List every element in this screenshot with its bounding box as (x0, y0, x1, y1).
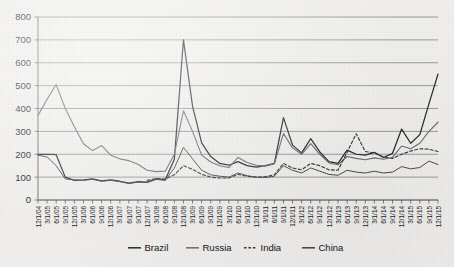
line-chart: 0100200300400500600700800 12/1/043/1/056… (0, 0, 454, 267)
x-axis-tick-label: 3/1/06 (80, 206, 87, 224)
y-axis-tick-label: 600 (15, 57, 31, 68)
legend-label-china: China (319, 242, 345, 253)
x-axis-tick-label: 9/1/05 (62, 206, 69, 224)
x-axis-tick-label: 12/1/10 (253, 206, 260, 228)
x-axis-tick-label: 9/1/15 (426, 206, 433, 224)
x-axis-tick-label: 12/1/04 (35, 206, 42, 228)
x-axis-tick-label: 3/1/07 (116, 206, 123, 224)
x-axis-tick-label: 6/1/09 (198, 206, 205, 224)
y-axis-tick-label: 100 (15, 172, 31, 183)
x-axis-tick-label: 6/1/14 (380, 206, 387, 224)
x-axis-tick-label: 3/1/14 (371, 206, 378, 224)
x-axis-tick-label: 9/1/07 (135, 206, 142, 224)
x-axis-tick-label: 12/1/15 (435, 206, 442, 228)
x-axis-tick-label: 3/1/09 (189, 206, 196, 224)
x-axis-tick-label: 12/1/08 (180, 206, 187, 228)
x-axis-tick-label: 12/1/06 (107, 206, 114, 228)
chart-canvas: 0100200300400500600700800 12/1/043/1/056… (0, 0, 454, 267)
data-series (38, 40, 438, 184)
x-axis-tick-label: 3/1/11 (262, 206, 269, 224)
x-axis-tick-label: 9/1/10 (244, 206, 251, 224)
x-axis-tick-label: 6/1/07 (126, 206, 133, 224)
x-axis-tick-label: 6/1/13 (344, 206, 351, 224)
x-axis-tick-label: 12/1/07 (144, 206, 151, 228)
y-axis-tick-label: 700 (15, 34, 31, 45)
x-axis-tick-label: 6/1/08 (162, 206, 169, 224)
y-axis-tick-label: 300 (15, 126, 31, 137)
y-axis: 0100200300400500600700800 (15, 11, 38, 205)
y-axis-tick-label: 0 (26, 194, 31, 205)
series-line-russia (38, 84, 438, 171)
x-axis-tick-label: 6/1/15 (416, 206, 423, 224)
x-axis-tick-label: 9/1/13 (353, 206, 360, 224)
x-axis-tick-label: 12/1/09 (216, 206, 223, 228)
x-axis-tick-label: 9/1/11 (280, 206, 287, 224)
x-axis-tick-label: 3/1/10 (226, 206, 233, 224)
x-axis-tick-label: 12/1/11 (289, 206, 296, 227)
x-axis-tick-label: 9/1/08 (171, 206, 178, 224)
legend-label-india: India (261, 242, 282, 253)
x-axis-tick-label: 9/1/09 (207, 206, 214, 224)
chart-legend: BrazilRussiaIndiaChina (128, 242, 344, 253)
x-axis-tick-label: 9/1/12 (316, 206, 323, 224)
legend-label-russia: Russia (203, 242, 233, 253)
series-line-brazil (38, 40, 438, 183)
x-axis-tick-label: 12/1/05 (71, 206, 78, 228)
x-axis-tick-label: 3/1/05 (44, 206, 51, 224)
legend-label-brazil: Brazil (145, 242, 169, 253)
x-axis-tick-label: 6/1/06 (89, 206, 96, 224)
x-axis-tick-label: 3/1/08 (153, 206, 160, 224)
x-axis-tick-label: 9/1/06 (98, 206, 105, 224)
x-axis-tick-label: 12/1/12 (326, 206, 333, 228)
y-axis-tick-label: 200 (15, 149, 31, 160)
x-axis-tick-label: 3/1/13 (335, 206, 342, 224)
x-axis-tick-label: 6/1/05 (53, 206, 60, 224)
x-axis-tick-label: 12/1/13 (362, 206, 369, 228)
y-axis-tick-label: 400 (15, 103, 31, 114)
series-line-china (38, 147, 438, 183)
x-axis-tick-label: 6/1/10 (235, 206, 242, 224)
x-axis-tick-label: 6/1/12 (307, 206, 314, 224)
x-axis-tick-label: 6/1/11 (271, 206, 278, 224)
y-axis-tick-label: 500 (15, 80, 31, 91)
x-axis-tick-label: 12/1/14 (398, 206, 405, 228)
x-axis-tick-label: 3/1/12 (298, 206, 305, 224)
x-axis-tick-label: 9/1/14 (389, 206, 396, 224)
y-axis-tick-label: 800 (15, 11, 31, 22)
x-axis: 12/1/043/1/056/1/059/1/0512/1/053/1/066/… (35, 200, 442, 227)
x-axis-tick-label: 3/1/15 (407, 206, 414, 224)
